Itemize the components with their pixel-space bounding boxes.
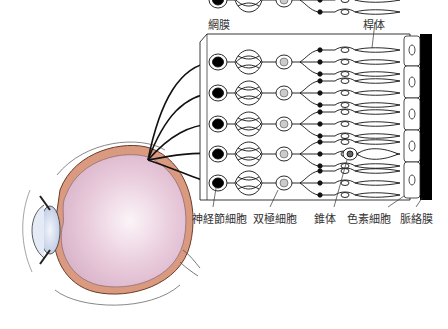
label-bipolar-cell: 双極細胞: [253, 210, 297, 226]
cornea: [32, 205, 44, 258]
label-cone: 錐体: [314, 210, 336, 226]
pigment-cells: [404, 36, 420, 198]
retina-diagram: [0, 0, 448, 329]
label-choroid: 脈絡膜: [400, 210, 433, 226]
label-rod: 桿体: [363, 16, 385, 32]
label-retina: 網膜: [208, 16, 230, 32]
eyeball: [23, 142, 200, 305]
cell-rows: [209, 0, 400, 15]
label-pigment-cell: 色素細胞: [347, 210, 391, 226]
label-ganglion-cell: 神経節細胞: [192, 210, 247, 226]
retina-block: [200, 34, 432, 200]
choroid-band: [420, 34, 432, 200]
